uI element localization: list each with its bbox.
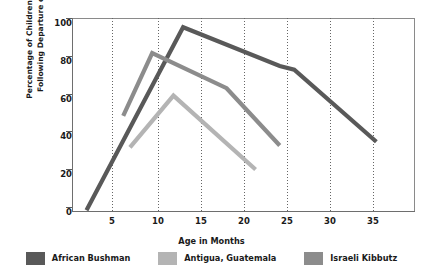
plot-area [72,18,415,212]
legend-swatch-antigua-guatemala [158,252,177,265]
legend-label-israeli-kibbutz: Israeli Kibbutz [330,253,397,263]
y-axis-title-line-1: Percentage of Children Who Cried [24,0,35,124]
legend-spacer-1 [130,258,158,259]
x-tick-label-30: 30 [315,216,345,226]
legend-swatch-african-bushman [26,252,45,265]
y-tick-label-20: 20 [46,169,72,179]
series-line-antigua-guatemala [130,96,256,170]
y-tick-label-60: 60 [46,94,72,104]
y-tick-label-0: 0 [46,207,72,217]
chart-figure: Percentage of Children Who Cried Followi… [0,0,423,273]
x-tick-label-20: 20 [229,216,259,226]
legend-spacer-2 [276,258,304,259]
legend-swatch-israeli-kibbutz [304,252,323,265]
legend-item-israeli-kibbutz: Israeli Kibbutz [304,252,397,265]
legend-label-antigua-guatemala: Antigua, Guatemala [184,253,276,263]
x-tick-label-35: 35 [358,216,388,226]
y-axis-title-line-2: Following Departure of Mother [35,0,46,124]
x-tick-label-15: 15 [186,216,216,226]
x-tick-label-25: 25 [272,216,302,226]
y-tick-label-80: 80 [46,56,72,66]
x-tick-label-5: 5 [97,216,127,226]
legend-item-antigua-guatemala: Antigua, Guatemala [158,252,276,265]
series-line-african-bushman [86,27,376,210]
legend-label-african-bushman: African Bushman [52,253,130,263]
y-tick-label-100: 100 [46,18,72,28]
y-axis-title: Percentage of Children Who Cried Followi… [24,0,48,124]
series-lines [72,18,415,212]
legend-item-african-bushman: African Bushman [26,252,130,265]
x-tick-label-10: 10 [143,216,173,226]
chart-legend: African Bushman Antigua, Guatemala Israe… [0,249,423,267]
y-tick-label-40: 40 [46,131,72,141]
x-axis-title: Age in Months [0,236,423,246]
